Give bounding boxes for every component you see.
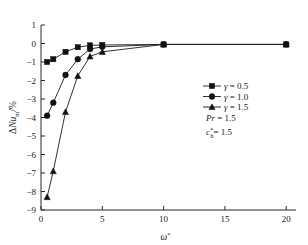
triangle-marker-icon bbox=[44, 194, 50, 200]
annotation-ch: c*h= 1.5 bbox=[206, 126, 233, 139]
triangle-marker-icon bbox=[62, 109, 68, 115]
circle-marker-icon bbox=[209, 94, 215, 100]
x-axis-title: ω* bbox=[161, 231, 171, 243]
y-tick-label: −8 bbox=[26, 187, 36, 197]
chart-canvas: 10−1−2−3−4−5−6−7−8−905101520ω*ΔNum/%γ = … bbox=[0, 0, 308, 245]
circle-marker-icon bbox=[87, 46, 93, 52]
y-tick-label: −4 bbox=[26, 113, 36, 123]
legend-label-3: γ = 1.5 bbox=[224, 102, 249, 112]
y-tick-label: −7 bbox=[26, 168, 36, 178]
series-line-2 bbox=[47, 44, 286, 115]
x-tick-label: 15 bbox=[220, 214, 230, 224]
y-tick-label: −1 bbox=[26, 57, 36, 67]
circle-marker-icon bbox=[44, 113, 50, 119]
y-tick-label: −3 bbox=[26, 94, 36, 104]
y-tick-label: 0 bbox=[32, 39, 37, 49]
circle-marker-icon bbox=[50, 100, 56, 106]
y-tick-label: 1 bbox=[32, 20, 37, 30]
x-tick-label: 0 bbox=[39, 214, 44, 224]
square-marker-icon bbox=[209, 83, 214, 88]
series-line-3 bbox=[47, 44, 286, 197]
x-tick-label: 5 bbox=[100, 214, 105, 224]
legend-label-1: γ = 0.5 bbox=[224, 81, 249, 91]
triangle-marker-icon bbox=[50, 168, 56, 174]
triangle-marker-icon bbox=[87, 53, 93, 59]
circle-marker-icon bbox=[63, 72, 69, 78]
x-tick-label: 10 bbox=[159, 214, 169, 224]
y-tick-label: −2 bbox=[26, 76, 36, 86]
annotation-pr: Pr = 1.5 bbox=[205, 113, 236, 123]
legend-label-2: γ = 1.0 bbox=[224, 92, 249, 102]
y-tick-label: −9 bbox=[26, 205, 36, 215]
y-axis-title: ΔNum/% bbox=[8, 101, 20, 134]
x-tick-label: 20 bbox=[282, 214, 292, 224]
y-tick-label: −6 bbox=[26, 150, 36, 160]
chart-figure: 10−1−2−3−4−5−6−7−8−905101520ω*ΔNum/%γ = … bbox=[0, 0, 308, 245]
square-marker-icon bbox=[63, 49, 68, 54]
circle-marker-icon bbox=[75, 56, 81, 62]
square-marker-icon bbox=[51, 57, 56, 62]
square-marker-icon bbox=[45, 59, 50, 64]
triangle-marker-icon bbox=[75, 73, 81, 79]
square-marker-icon bbox=[75, 45, 80, 50]
y-tick-label: −5 bbox=[26, 131, 36, 141]
